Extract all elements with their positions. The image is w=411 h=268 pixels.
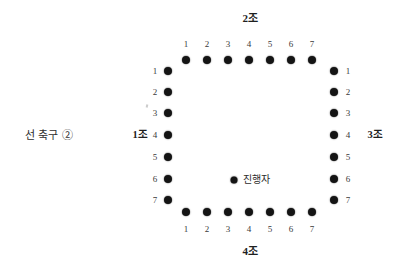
seat-dot-bottom-2	[203, 208, 211, 216]
seat-dot-right-5	[330, 153, 338, 161]
seat-dot-top-1	[182, 56, 190, 64]
scan-artifact-speck	[146, 104, 149, 107]
seat-index-right-2: 2	[346, 88, 351, 97]
seating-diagram: 선 축구 ② 2조 1 2 3 4 5 6 7 1조 1 2 3 4 5 6 7…	[0, 0, 411, 268]
seat-dot-left-1	[164, 67, 172, 75]
seat-index-top-5: 5	[268, 40, 273, 49]
seat-dot-bottom-7	[308, 208, 316, 216]
seat-index-right-7: 7	[346, 196, 351, 205]
seat-dot-top-2	[203, 56, 211, 64]
seat-index-bottom-1: 1	[184, 225, 189, 234]
seat-index-bottom-2: 2	[205, 225, 210, 234]
seat-dot-left-3	[164, 109, 172, 117]
seat-dot-left-7	[164, 196, 172, 204]
seat-index-right-3: 3	[346, 109, 351, 118]
seat-dot-right-4	[330, 131, 338, 139]
seat-dot-bottom-5	[266, 208, 274, 216]
seat-index-left-6: 6	[153, 175, 158, 184]
seat-dot-left-2	[164, 88, 172, 96]
seat-dot-right-1	[330, 67, 338, 75]
seat-dot-top-4	[245, 56, 253, 64]
seat-dot-top-5	[266, 56, 274, 64]
seat-index-bottom-6: 6	[289, 225, 294, 234]
seat-index-left-5: 5	[153, 153, 158, 162]
seat-index-left-3: 3	[153, 109, 158, 118]
facilitator-dot	[231, 177, 238, 184]
seat-dot-left-6	[164, 175, 172, 183]
seat-index-bottom-4: 4	[247, 225, 252, 234]
seat-index-top-3: 3	[226, 40, 231, 49]
seat-index-bottom-5: 5	[268, 225, 273, 234]
seat-dot-bottom-3	[224, 208, 232, 216]
group-label-bottom: 4조	[242, 246, 257, 257]
seat-dot-left-5	[164, 153, 172, 161]
group-label-top: 2조	[242, 13, 257, 24]
seat-dot-right-3	[330, 109, 338, 117]
seat-index-top-6: 6	[289, 40, 294, 49]
seat-index-left-4: 4	[153, 131, 158, 140]
seat-dot-right-7	[330, 196, 338, 204]
seat-dot-top-6	[287, 56, 295, 64]
seat-index-bottom-3: 3	[226, 225, 231, 234]
group-label-right: 3조	[368, 130, 383, 141]
seat-dot-right-6	[330, 175, 338, 183]
seat-index-top-4: 4	[247, 40, 252, 49]
seat-index-left-7: 7	[153, 196, 158, 205]
seat-index-left-2: 2	[153, 88, 158, 97]
seat-index-right-6: 6	[346, 175, 351, 184]
seat-dot-bottom-1	[182, 208, 190, 216]
seat-index-right-4: 4	[346, 131, 351, 140]
seat-index-top-2: 2	[205, 40, 210, 49]
seat-dot-bottom-4	[245, 208, 253, 216]
group-label-left: 1조	[133, 130, 148, 141]
seat-index-left-1: 1	[153, 67, 158, 76]
seat-index-right-1: 1	[346, 67, 351, 76]
seat-dot-right-2	[330, 88, 338, 96]
seat-dot-left-4	[164, 131, 172, 139]
seat-index-bottom-7: 7	[310, 225, 315, 234]
seat-index-top-7: 7	[310, 40, 315, 49]
facilitator-label: 진행자	[243, 175, 270, 185]
seat-dot-top-3	[224, 56, 232, 64]
diagram-caption: 선 축구 ②	[25, 130, 74, 141]
seat-index-top-1: 1	[184, 40, 189, 49]
seat-dot-bottom-6	[287, 208, 295, 216]
seat-index-right-5: 5	[346, 153, 351, 162]
seat-dot-top-7	[308, 56, 316, 64]
